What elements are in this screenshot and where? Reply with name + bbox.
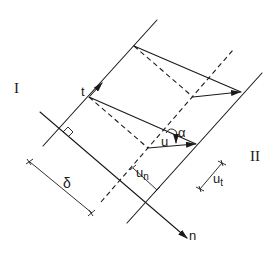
diagram-canvas: I II t n u α δ un ut <box>0 0 276 253</box>
upper-solid-segment <box>134 46 241 92</box>
angle-alpha-label: α <box>178 125 186 140</box>
tangential-component-label: ut <box>213 171 223 188</box>
thickness-delta-label: δ <box>63 175 71 191</box>
lower-dashed-segment <box>89 97 148 148</box>
upper-dashed-segment <box>134 46 193 97</box>
displacement-u-arrow-icon <box>148 144 195 148</box>
displacement-u-label: u <box>161 134 168 149</box>
delta-dimension-line <box>30 162 92 213</box>
left-boundary-line <box>43 20 157 146</box>
upper-displacement-arrow-icon <box>193 92 240 97</box>
ut-tick-start-icon <box>196 186 204 192</box>
normal-component-label: un <box>136 165 149 182</box>
tangent-arrow-icon <box>90 83 102 96</box>
ut-tick-end-icon <box>218 160 226 166</box>
region-I-label: I <box>14 80 19 96</box>
tangent-label: t <box>81 84 85 99</box>
region-II-label: II <box>250 148 260 164</box>
normal-label: n <box>189 228 196 243</box>
